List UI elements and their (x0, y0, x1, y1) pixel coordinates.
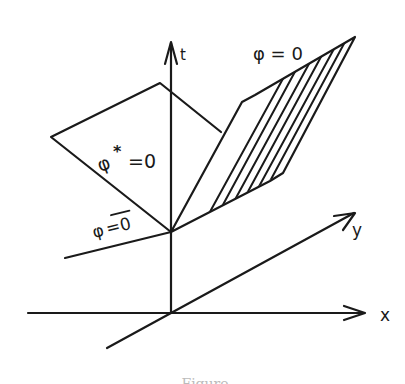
y-axis-label: y (352, 220, 362, 240)
shaded-region-label: φ = 0 (253, 43, 303, 64)
phi-star-equals: =0 (128, 150, 156, 172)
phi-bar-label: φ =0 (90, 211, 135, 242)
figure-caption: Figure (150, 374, 260, 384)
y-axis (107, 213, 355, 348)
svg-text:φ: φ (90, 220, 106, 242)
svg-text:=0: =0 (104, 213, 133, 238)
hatch-lines (200, 40, 346, 230)
phi-star-superscript: * (113, 142, 122, 161)
phi-shaded-region (171, 37, 355, 232)
t-axis (165, 42, 177, 313)
diagram-figure: t x y φ = 0 φ * =0 φ =0 (0, 0, 405, 384)
x-axis (28, 306, 365, 320)
x-axis-label: x (380, 305, 390, 325)
t-axis-label: t (180, 46, 186, 64)
